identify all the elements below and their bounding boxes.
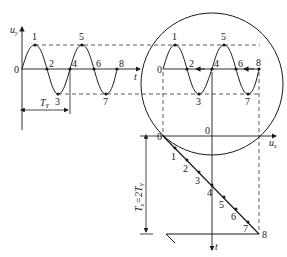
left-point-label-4: 4 (72, 58, 77, 69)
left-point-label-7: 7 (103, 96, 108, 107)
screen-point-label-1: 1 (172, 31, 177, 42)
sweep-center-label: 0 (205, 125, 210, 136)
left-point-label-3: 3 (55, 96, 60, 107)
screen-point-label-4: 4 (214, 58, 219, 69)
left-point-label-2: 2 (49, 58, 54, 69)
ux-axis-label: ux (269, 137, 277, 149)
sweep-point-label-8: 8 (262, 229, 267, 240)
left-plot: uy 0 t 1 2 3 4 5 6 7 8 TY (10, 24, 140, 130)
screen-point-label-5: 5 (221, 31, 226, 42)
left-origin-label: 0 (14, 64, 19, 75)
left-point-label-6: 6 (96, 58, 101, 69)
left-x-axis-label: t (134, 71, 137, 82)
left-point-label-1: 1 (32, 31, 37, 42)
sweep-origin-label: 0 (157, 131, 162, 142)
sweep-point-label-5: 5 (219, 199, 224, 210)
diagram-canvas: uy 0 t 1 2 3 4 5 6 7 8 TY 0 (0, 0, 287, 257)
screen-point-label-7: 7 (245, 96, 250, 107)
period-ty-label: TY (40, 97, 50, 109)
diagram-svg: uy 0 t 1 2 3 4 5 6 7 8 TY 0 (0, 0, 287, 257)
period-tx-label: Tx=2TY (133, 182, 145, 212)
sweep-point-label-6: 6 (231, 211, 236, 222)
sweep-plot: 0 0 ux t 1 2 3 4 5 6 7 8 Tx=2TY (133, 72, 277, 252)
left-y-axis-label: uy (10, 24, 18, 36)
screen-point-label-8: 8 (256, 57, 261, 68)
sweep-point-label-2: 2 (183, 163, 188, 174)
sweep-point-label-3: 3 (195, 175, 200, 186)
t-axis-label: t (215, 241, 218, 252)
screen-point-label-2: 2 (189, 58, 194, 69)
sweep-point-label-7: 7 (243, 223, 248, 234)
left-point-label-8: 8 (119, 58, 124, 69)
flyback-tail (166, 234, 175, 243)
screen-point-label-6: 6 (238, 58, 243, 69)
screen-origin-label: 0 (157, 64, 162, 75)
left-point-label-5: 5 (79, 31, 84, 42)
screen-point-label-3: 3 (196, 96, 201, 107)
screen-points (173, 43, 260, 95)
sweep-point-label-1: 1 (171, 151, 176, 162)
sweep-point-label-4: 4 (207, 187, 212, 198)
